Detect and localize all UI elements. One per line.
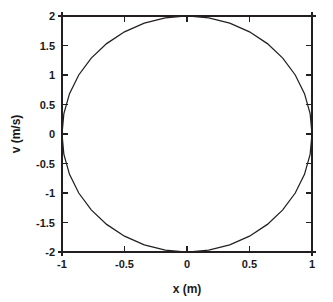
- x-tick-label: 0: [184, 258, 190, 270]
- y-tick-label: 2: [49, 10, 55, 22]
- x-tick-label: -0.5: [115, 258, 134, 270]
- plot-frame: [62, 16, 312, 252]
- y-tick-label: 1.5: [40, 40, 55, 52]
- x-tick-label: -1: [57, 258, 67, 270]
- x-tick-label: 0.5: [242, 258, 257, 270]
- y-tick-label: 0.5: [40, 99, 55, 111]
- y-tick-label: 0: [49, 128, 55, 140]
- x-tick-label: 1: [309, 258, 315, 270]
- chart-figure: -1-0.500.51 21.510.50-0.5-1-1.5-2 x (m) …: [0, 0, 333, 302]
- data-series-group: [62, 16, 312, 252]
- y-tick-label: -1.5: [36, 217, 55, 229]
- x-axis-ticks-top: [62, 12, 312, 22]
- x-axis-ticks-bottom: [62, 246, 312, 256]
- y-tick-label: -1: [45, 187, 55, 199]
- y-axis-title: v (m/s): [9, 115, 23, 154]
- phase-space-trajectory-curve: [62, 16, 312, 252]
- y-tick-label: -2: [45, 246, 55, 258]
- y-tick-label: -0.5: [36, 158, 55, 170]
- y-axis-ticks-right: [306, 16, 316, 252]
- y-axis-ticks-left: [58, 16, 68, 252]
- x-axis-title: x (m): [173, 282, 202, 296]
- y-axis-tick-labels: 21.510.50-0.5-1-1.5-2: [36, 10, 55, 258]
- frame-rect: [62, 16, 312, 252]
- x-axis-tick-labels: -1-0.500.51: [57, 258, 315, 270]
- y-tick-label: 1: [49, 69, 55, 81]
- plot-canvas: -1-0.500.51 21.510.50-0.5-1-1.5-2 x (m) …: [0, 0, 333, 302]
